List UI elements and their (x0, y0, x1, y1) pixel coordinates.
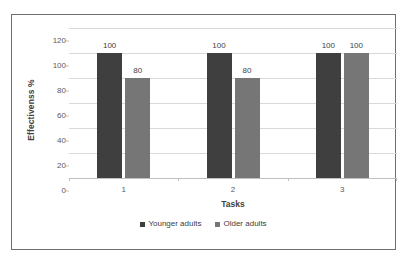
y-axis-title-text: Effectivenss % (26, 79, 36, 140)
x-axis-tick-labels: 123 (69, 178, 397, 198)
y-axis-tick-label: 80 (40, 87, 66, 95)
legend-swatch-icon (215, 222, 220, 227)
plot-area: 1008010080100100 (69, 28, 397, 178)
y-axis-tick-label: 40 (40, 137, 66, 145)
x-axis-title: Tasks (69, 199, 397, 209)
x-axis-tick-label: 3 (340, 186, 344, 194)
legend-swatch-icon (140, 222, 145, 227)
bar (344, 53, 369, 178)
bar-value-label: 100 (316, 42, 341, 50)
bar-value-label: 80 (235, 67, 260, 75)
y-axis-tick-label: 60 (40, 112, 66, 120)
legend-item[interactable]: Younger adults (140, 220, 201, 228)
chart-container: Effectivenss % 020406080100120 100801008… (11, 14, 396, 250)
x-axis-tick-mark (178, 178, 179, 181)
bar (235, 78, 260, 178)
legend-item[interactable]: Older adults (215, 220, 266, 228)
y-axis-tick-label: 0 (40, 187, 66, 195)
gridline (69, 28, 397, 29)
bar (97, 53, 122, 178)
x-axis-tick-label: 1 (121, 186, 125, 194)
bar-value-label: 100 (97, 42, 122, 50)
y-axis-tick-label: 120 (40, 37, 66, 45)
x-axis-tick-mark (396, 178, 397, 181)
bar-value-label: 80 (125, 67, 150, 75)
bar-value-label: 100 (207, 42, 232, 50)
bar (316, 53, 341, 178)
y-axis-tick-labels: 020406080100120 (36, 28, 66, 178)
x-axis-tick-mark (69, 178, 70, 181)
bar (207, 53, 232, 178)
bar-value-label: 100 (344, 42, 369, 50)
x-axis-tick-label: 2 (231, 186, 235, 194)
legend-label: Younger adults (148, 220, 201, 228)
y-axis-tick-label: 20 (40, 162, 66, 170)
bar (125, 78, 150, 178)
x-axis-tick-mark (288, 178, 289, 181)
chart-legend: Younger adultsOlder adults (12, 220, 395, 228)
legend-label: Older adults (223, 220, 266, 228)
y-axis-tick-label: 100 (40, 62, 66, 70)
